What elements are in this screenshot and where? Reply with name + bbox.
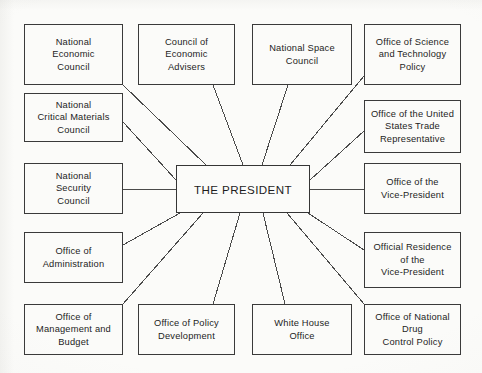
node-council-of-economic-advisers-label: Council of Economic Advisers xyxy=(162,36,211,73)
node-national-space-council[interactable]: National Space Council xyxy=(252,24,352,85)
node-office-of-policy-development[interactable]: Office of Policy Development xyxy=(138,304,235,355)
node-office-of-management-and-budget-label: Office of Management and Budget xyxy=(33,311,114,348)
node-office-of-policy-development-label: Office of Policy Development xyxy=(151,317,222,342)
node-national-critical-materials-council-label: National Critical Materials Council xyxy=(34,99,112,136)
node-council-of-economic-advisers[interactable]: Council of Economic Advisers xyxy=(138,24,235,85)
node-office-of-administration[interactable]: Office of Administration xyxy=(24,232,123,283)
connector-president-to-national-economic-council xyxy=(123,85,206,165)
connector-president-to-office-of-management-and-budget xyxy=(123,213,203,304)
connector-president-to-white-house-office xyxy=(263,213,285,304)
connector-president-to-council-of-economic-advisers xyxy=(213,85,243,165)
connector-president-to-office-of-science-and-technology-policy xyxy=(290,76,364,165)
node-national-critical-materials-council[interactable]: National Critical Materials Council xyxy=(24,93,123,142)
node-office-of-science-and-technology-policy[interactable]: Office of Science and Technology Policy xyxy=(364,24,461,85)
node-president[interactable]: THE PRESIDENT xyxy=(176,165,310,213)
node-office-of-science-and-technology-policy-label: Office of Science and Technology Policy xyxy=(373,36,452,73)
node-official-residence-of-the-vice-president-label: Official Residence of the Vice-President xyxy=(370,241,454,278)
node-office-of-the-vice-president[interactable]: Office of the Vice-President xyxy=(364,163,461,214)
node-office-of-management-and-budget[interactable]: Office of Management and Budget xyxy=(24,304,123,355)
node-white-house-office-label: White House Office xyxy=(271,317,332,342)
node-office-of-administration-label: Office of Administration xyxy=(40,245,108,270)
connector-president-to-office-of-the-united-states-trade-representative xyxy=(310,131,364,180)
node-office-of-national-drug-control-policy-label: Office of National Drug Control Policy xyxy=(372,311,453,348)
connector-president-to-national-space-council xyxy=(262,85,288,165)
connector-president-to-office-of-national-drug-control-policy xyxy=(287,213,364,304)
node-official-residence-of-the-vice-president[interactable]: Official Residence of the Vice-President xyxy=(364,232,461,288)
connector-president-to-office-of-policy-development xyxy=(213,213,240,304)
node-national-economic-council-label: National Economic Council xyxy=(49,36,97,73)
node-national-security-council[interactable]: National Security Council xyxy=(24,163,123,214)
node-national-economic-council[interactable]: National Economic Council xyxy=(24,24,123,85)
connector-president-to-office-of-administration xyxy=(123,213,180,245)
node-office-of-national-drug-control-policy[interactable]: Office of National Drug Control Policy xyxy=(364,304,461,355)
node-office-of-the-united-states-trade-representative-label: Office of the United States Trade Repres… xyxy=(368,108,457,145)
node-office-of-the-united-states-trade-representative[interactable]: Office of the United States Trade Repres… xyxy=(364,100,461,153)
node-national-security-council-label: National Security Council xyxy=(53,170,95,207)
node-office-of-the-vice-president-label: Office of the Vice-President xyxy=(378,176,447,201)
node-president-label: THE PRESIDENT xyxy=(191,183,295,196)
connector-president-to-national-critical-materials-council xyxy=(123,122,176,180)
organization-chart: THE PRESIDENT National Economic CouncilC… xyxy=(0,0,482,373)
connector-president-to-official-residence-of-the-vice-president xyxy=(308,213,364,250)
node-national-space-council-label: National Space Council xyxy=(266,42,338,67)
node-white-house-office[interactable]: White House Office xyxy=(252,304,352,355)
